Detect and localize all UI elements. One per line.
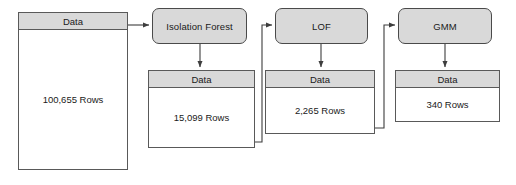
data-table-lof-output-header: Data — [266, 71, 374, 88]
process-node-gmm[interactable]: GMM — [398, 8, 492, 44]
data-table-input-header: Data — [19, 13, 127, 30]
process-node-isolation-forest[interactable]: Isolation Forest — [152, 8, 247, 44]
data-table-isolation-forest-output-header: Data — [149, 71, 254, 88]
process-node-lof[interactable]: LOF — [275, 8, 368, 44]
data-table-gmm-output: Data 340 Rows — [395, 70, 500, 122]
process-node-gmm-label: GMM — [433, 21, 457, 32]
process-node-isolation-forest-label: Isolation Forest — [166, 21, 233, 32]
data-table-isolation-forest-output: Data 15,099 Rows — [148, 70, 255, 148]
pipeline-diagram: Data 100,655 Rows Isolation Forest Data … — [0, 0, 516, 185]
connector-lof-output-to-gmm — [375, 25, 395, 128]
data-table-input-value: 100,655 Rows — [19, 30, 127, 169]
data-table-gmm-output-header: Data — [396, 71, 499, 88]
data-table-input: Data 100,655 Rows — [18, 12, 128, 170]
data-table-lof-output: Data 2,265 Rows — [265, 70, 375, 134]
process-node-lof-label: LOF — [312, 21, 331, 32]
data-table-lof-output-value: 2,265 Rows — [266, 88, 374, 133]
data-table-isolation-forest-output-value: 15,099 Rows — [149, 88, 254, 147]
data-table-gmm-output-value: 340 Rows — [396, 88, 499, 121]
